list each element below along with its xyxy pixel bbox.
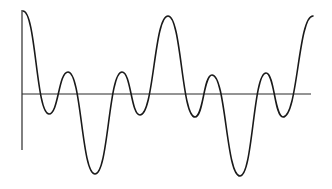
- waveform-plot: [0, 0, 332, 189]
- waveform-figure: [0, 0, 332, 189]
